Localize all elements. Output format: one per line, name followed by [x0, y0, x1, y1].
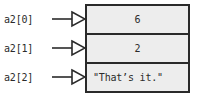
array-index-label-2: a2[2] [4, 72, 56, 83]
right-arrowhead-icon [52, 10, 86, 28]
array-index-label-0: a2[0] [4, 14, 56, 25]
right-arrowhead-icon [52, 39, 86, 57]
array-cells-container: 6 2 "That’s it." [85, 4, 190, 93]
pointer-arrow-2 [52, 68, 86, 86]
array-index-label-1: a2[1] [4, 43, 56, 54]
array-cell-2: "That’s it." [87, 62, 188, 91]
array-reference-diagram: a2[0] a2[1] a2[2] 6 2 "That’s it." [0, 0, 199, 100]
pointer-arrow-1 [52, 39, 86, 57]
array-cell-0: 6 [87, 6, 188, 33]
right-arrowhead-icon [52, 68, 86, 86]
array-cell-1: 2 [87, 33, 188, 62]
pointer-arrow-0 [52, 10, 86, 28]
